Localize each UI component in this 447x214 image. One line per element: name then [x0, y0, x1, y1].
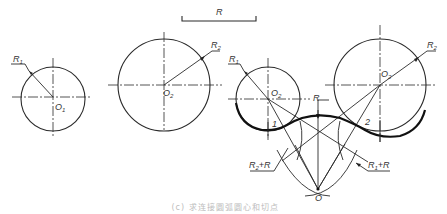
construction-figure: R1 O2 R2 O2 R 1 2: [228, 25, 438, 203]
construction-diagram: R R1 O1 R2 O2 R1 O2: [0, 0, 447, 214]
right-o2-large-label: O2: [381, 69, 392, 80]
figure-caption: (c) 求连接圆弧圆心和切点: [150, 201, 300, 212]
r1-plus-r-label: R1+R: [368, 160, 390, 171]
right-o2-small-label: O2: [271, 88, 282, 99]
r2-plus-r-label: R2+R: [249, 160, 271, 171]
circle-o2: R2 O2: [108, 32, 222, 131]
r-reference-bar: R: [182, 7, 256, 21]
arc-r-label: R: [313, 93, 320, 103]
right-r1-label: R1: [229, 54, 239, 65]
r2-label: R2: [211, 40, 222, 51]
origin-o-label: O: [315, 193, 322, 203]
tangent-point-2: 2: [364, 117, 370, 127]
o2-label: O2: [163, 88, 174, 99]
circle-o1: R1 O1: [11, 54, 92, 138]
right-r2-label: R2: [427, 40, 438, 51]
r-bar-label: R: [216, 7, 223, 17]
o1-label: O1: [55, 102, 65, 113]
tangent-point-1: 1: [272, 119, 277, 129]
r1-label: R1: [13, 54, 23, 65]
